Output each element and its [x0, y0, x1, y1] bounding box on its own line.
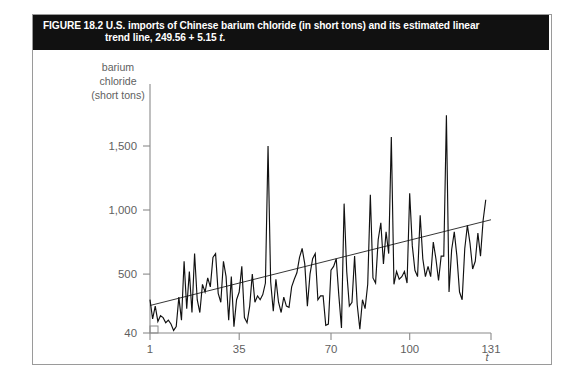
y-axis-title-line-3: (short tons): [91, 89, 145, 101]
plot-area: barium chloride (short tons) 405001,0001…: [33, 50, 549, 364]
y-axis-title-line-1: barium: [102, 61, 135, 73]
x-tick-label: 1: [147, 343, 153, 355]
figure-number: FIGURE 18.2: [43, 20, 103, 31]
figure-title-bar: FIGURE 18.2 U.S. imports of Chinese bari…: [33, 15, 549, 50]
y-tick-label: 1,000: [108, 204, 137, 216]
y-axis-title-line-2: chloride: [99, 75, 136, 87]
x-tick-label: 131: [481, 343, 500, 355]
y-tick-label: 1,500: [108, 140, 137, 152]
figure-title-line-1: FIGURE 18.2 U.S. imports of Chinese bari…: [43, 20, 541, 32]
x-tick-label: 70: [325, 343, 338, 355]
figure-caption-line-2: trend line, 249.56 + 5.15: [105, 32, 219, 43]
y-tick-label: 500: [118, 268, 137, 280]
x-tick-label: 100: [400, 343, 419, 355]
data-series-line: [150, 115, 486, 330]
figure-title-line-2: trend line, 249.56 + 5.15 t.: [43, 32, 541, 44]
line-chart: barium chloride (short tons) 405001,0001…: [33, 50, 549, 364]
x-tick-group: 13570100131: [147, 333, 501, 355]
y-tick-group: 405001,0001,500: [108, 140, 150, 339]
figure-caption-variable: t.: [219, 32, 225, 43]
figure-caption-line-1: U.S. imports of Chinese barium chloride …: [106, 20, 480, 31]
x-tick-label: 35: [233, 343, 246, 355]
y-tick-label: 40: [124, 327, 137, 339]
origin-break-marker: [150, 326, 158, 333]
figure-container: FIGURE 18.2 U.S. imports of Chinese bari…: [32, 14, 552, 365]
